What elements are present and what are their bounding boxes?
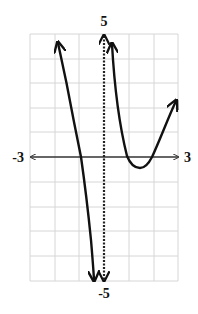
x-min-label: -3 (12, 150, 24, 165)
curve-right-branch (112, 44, 176, 168)
graph: 5 -5 -3 3 (0, 0, 198, 314)
y-min-label: -5 (98, 286, 110, 301)
x-max-label: 3 (184, 150, 191, 165)
y-max-label: 5 (101, 14, 108, 29)
curve-left-branch (58, 43, 94, 280)
